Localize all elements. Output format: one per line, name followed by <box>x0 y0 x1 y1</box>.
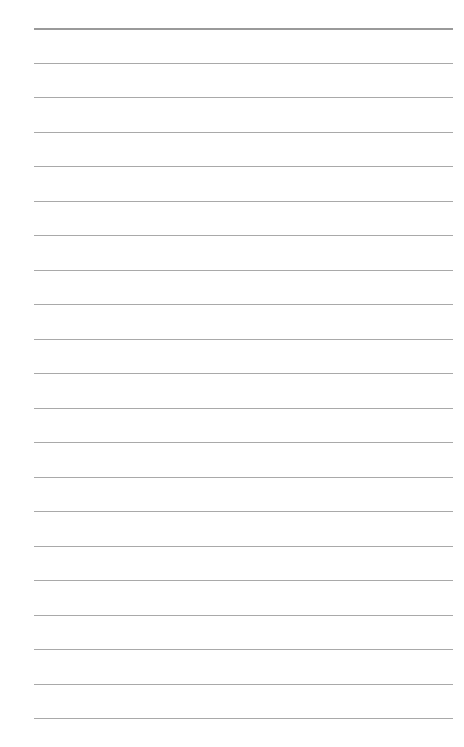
rule-line <box>34 684 453 685</box>
rule-line <box>34 649 453 650</box>
lined-page <box>0 0 464 747</box>
rule-line <box>34 408 453 409</box>
header-rule-line <box>34 28 453 30</box>
rule-line <box>34 546 453 547</box>
rule-line <box>34 580 453 581</box>
rule-line <box>34 132 453 133</box>
rule-line <box>34 373 453 374</box>
rule-line <box>34 270 453 271</box>
rule-line <box>34 63 453 64</box>
rule-line <box>34 511 453 512</box>
rule-line <box>34 615 453 616</box>
rule-line <box>34 718 453 719</box>
rule-line <box>34 442 453 443</box>
rule-line <box>34 477 453 478</box>
rule-line <box>34 235 453 236</box>
rule-line <box>34 339 453 340</box>
rule-line <box>34 166 453 167</box>
rule-line <box>34 97 453 98</box>
rule-line <box>34 304 453 305</box>
rule-line <box>34 201 453 202</box>
